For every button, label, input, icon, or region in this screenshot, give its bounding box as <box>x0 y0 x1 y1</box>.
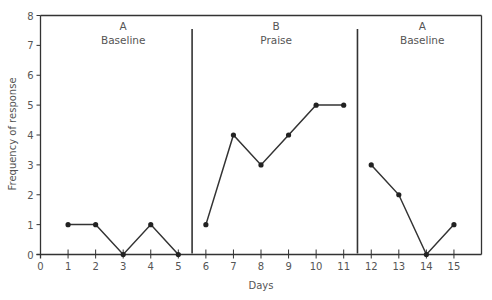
y-axis-title: Frequency of response <box>7 77 18 190</box>
data-point <box>369 162 374 167</box>
data-point <box>231 132 236 137</box>
data-point <box>93 222 98 227</box>
data-point <box>396 192 401 197</box>
x-tick-label: 13 <box>392 261 405 272</box>
data-point <box>65 222 70 227</box>
data-line <box>371 165 454 255</box>
data-point <box>286 132 291 137</box>
phase-letter: A <box>120 20 128 32</box>
y-axis: 012345678 <box>27 11 40 261</box>
data-point <box>341 103 346 108</box>
data-point <box>424 252 429 257</box>
data-line <box>206 105 344 225</box>
y-tick-label: 8 <box>27 11 33 22</box>
x-tick-label: 2 <box>92 261 98 272</box>
x-tick-label: 5 <box>175 261 181 272</box>
x-tick-label: 3 <box>120 261 126 272</box>
x-tick-label: 12 <box>365 261 378 272</box>
y-tick-label: 2 <box>27 190 33 201</box>
y-tick-label: 1 <box>27 220 33 231</box>
data-series <box>65 103 456 258</box>
x-tick-label: 15 <box>448 261 461 272</box>
y-tick-label: 3 <box>27 160 33 171</box>
x-tick-label: 8 <box>258 261 264 272</box>
x-tick-label: 7 <box>230 261 236 272</box>
data-point <box>148 222 153 227</box>
phase-letter: B <box>273 20 280 32</box>
y-tick-label: 7 <box>27 40 33 51</box>
y-tick-label: 4 <box>27 130 33 141</box>
y-tick-label: 0 <box>27 250 33 261</box>
data-point <box>121 252 126 257</box>
x-tick-label: 6 <box>203 261 209 272</box>
x-tick-label: 10 <box>310 261 323 272</box>
plot-frame <box>37 16 482 259</box>
x-tick-label: 1 <box>65 261 71 272</box>
single-case-design-chart: 012345678 0123456789101112131415 ABaseli… <box>0 0 492 300</box>
x-tick-label: 11 <box>337 261 350 272</box>
x-axis: 0123456789101112131415 <box>37 250 460 272</box>
data-point <box>203 222 208 227</box>
x-tick-label: 0 <box>37 261 43 272</box>
phase-change-lines <box>192 29 357 254</box>
data-point <box>314 103 319 108</box>
phase-name: Baseline <box>400 34 445 46</box>
data-point <box>258 162 263 167</box>
data-point <box>176 252 181 257</box>
phase-letter: A <box>419 20 427 32</box>
x-axis-title: Days <box>249 280 274 291</box>
x-tick-label: 9 <box>285 261 291 272</box>
y-tick-label: 6 <box>27 70 33 81</box>
phase-name: Praise <box>260 34 292 46</box>
phase-labels: ABaselineBPraiseABaseline <box>101 20 445 46</box>
x-tick-label: 4 <box>148 261 154 272</box>
y-tick-label: 5 <box>27 100 33 111</box>
phase-name: Baseline <box>101 34 146 46</box>
x-tick-label: 14 <box>420 261 433 272</box>
data-point <box>451 222 456 227</box>
